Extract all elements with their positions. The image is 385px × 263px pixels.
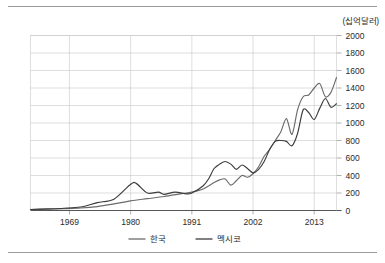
y-tick-label: 1800	[346, 48, 365, 58]
y-tick-label: 600	[346, 153, 360, 163]
y-tick-label: 1400	[346, 83, 365, 93]
data-series-group	[31, 78, 337, 210]
series-line	[31, 78, 337, 210]
y-tick-label: 2000	[346, 31, 365, 41]
y-tick-label: 800	[346, 136, 360, 146]
plot-area: 0200400600800100012001400160018002000 19…	[0, 0, 385, 263]
y-tick-label: 200	[346, 188, 360, 198]
vertical-gridlines	[69, 36, 314, 215]
y-tick-label: 0	[346, 206, 351, 216]
x-tick-label: 1969	[60, 217, 79, 227]
chart-legend: 한국멕시코	[129, 234, 241, 244]
chart-figure: (십억달러) 020040060080010001200140016001800…	[0, 0, 385, 263]
legend-label: 한국	[150, 234, 166, 244]
x-tick-label: 1980	[121, 217, 140, 227]
y-axis-tick-labels: 0200400600800100012001400160018002000	[346, 31, 365, 216]
y-tick-label: 400	[346, 171, 360, 181]
x-tick-label: 2002	[244, 217, 263, 227]
y-tick-label: 1600	[346, 66, 365, 76]
y-tick-label: 1000	[346, 118, 365, 128]
line-chart-svg: 0200400600800100012001400160018002000 19…	[0, 0, 385, 263]
x-tick-label: 1991	[182, 217, 201, 227]
legend-label: 멕시코	[217, 234, 241, 244]
x-tick-label: 2013	[305, 217, 324, 227]
x-axis-tick-labels: 19691980199120022013	[60, 217, 324, 227]
y-tick-label: 1200	[346, 101, 365, 111]
